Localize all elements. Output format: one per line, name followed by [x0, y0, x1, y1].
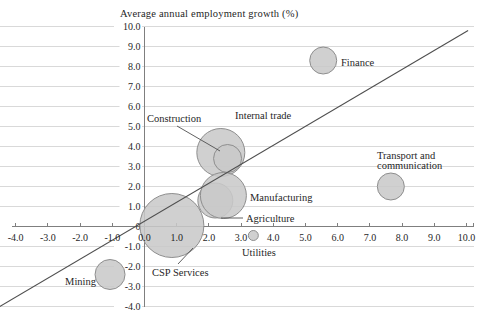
y-tick-label: -2.0 [125, 261, 141, 272]
x-tick-label: 7.0 [364, 232, 377, 243]
bubble-csp-services [140, 194, 204, 258]
chart-plot-area: 10.09.08.07.06.05.04.03.02.01.00-1.0-2.0… [0, 0, 479, 314]
x-tick-label: 6.0 [331, 232, 344, 243]
x-tick-label: 2.0 [203, 232, 216, 243]
bubble-transport-communication [377, 173, 404, 200]
x-tick-label: 5.0 [299, 232, 312, 243]
label-finance: Finance [341, 57, 375, 68]
y-tick-label: 2.0 [128, 181, 141, 192]
x-tick-label: 4.0 [267, 232, 280, 243]
label-agriculture: Agriculture [246, 213, 295, 224]
label-utilities: Utilities [242, 247, 276, 258]
y-tick-label: 3.0 [128, 161, 141, 172]
x-tick-label: 9.0 [428, 232, 441, 243]
x-tick-label: 10.0 [458, 232, 476, 243]
employment-growth-bubble-chart: 10.09.08.07.06.05.04.03.02.01.00-1.0-2.0… [0, 0, 479, 314]
y-tick-label: -4.0 [125, 301, 141, 312]
y-tick-label: 7.0 [128, 81, 141, 92]
y-tick-label: 5.0 [128, 121, 141, 132]
x-tick-label: -2.0 [72, 232, 88, 243]
chart-title: Average annual employment growth (%) [120, 8, 298, 19]
label-internal-trade: Internal trade [235, 110, 292, 121]
y-tick-label: 1.0 [128, 201, 141, 212]
x-tick-label: -4.0 [8, 232, 24, 243]
y-tick-label: 10.0 [123, 21, 141, 32]
y-tick-label: 9.0 [128, 41, 141, 52]
bubble-manufacturing [200, 173, 246, 219]
y-tick-label: -3.0 [125, 281, 141, 292]
x-tick-label: 8.0 [396, 232, 409, 243]
x-tick-label: 3.0 [235, 232, 248, 243]
x-tick-label: 0.0 [138, 232, 151, 243]
label-transport-communication: Transport and [377, 150, 436, 161]
y-tick-label: 4.0 [128, 141, 141, 152]
bubble-mining [95, 260, 125, 290]
bubble-utilities [248, 231, 258, 241]
x-tick-label: -3.0 [40, 232, 56, 243]
label-manufacturing: Manufacturing [250, 192, 313, 203]
label-construction: Construction [147, 113, 202, 124]
y-tick-label: 6.0 [128, 101, 141, 112]
label-csp-services: CSP Services [152, 267, 209, 278]
label-transport-communication: communication [377, 160, 443, 171]
x-tick-label: 1.0 [170, 232, 183, 243]
bubble-construction [214, 145, 242, 173]
x-tick-label: -1.0 [104, 232, 120, 243]
label-mining: Mining [65, 276, 97, 287]
y-tick-label: 8.0 [128, 61, 141, 72]
bubble-finance [310, 47, 337, 74]
